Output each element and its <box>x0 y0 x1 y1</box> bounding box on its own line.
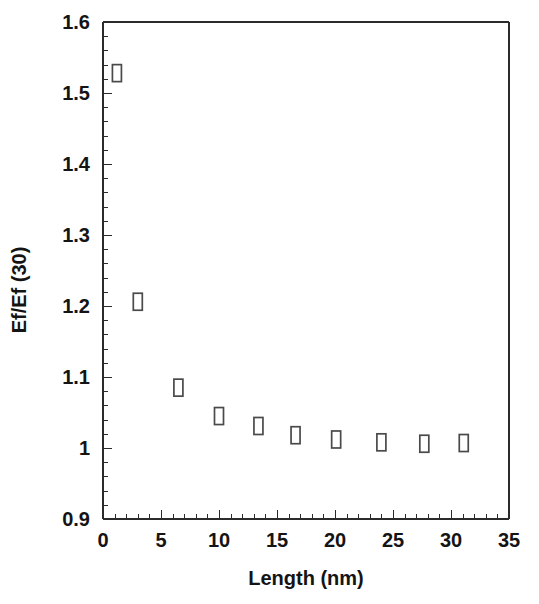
x-tick-label: 15 <box>266 529 288 551</box>
y-axis-title: Ef/Ef (30) <box>8 247 30 334</box>
x-tick-label: 20 <box>324 529 346 551</box>
data-point-marker <box>215 408 224 425</box>
x-axis-title: Length (nm) <box>248 567 364 589</box>
tick-labels-group: 051015202530350.911.11.21.31.41.51.6 <box>62 11 520 551</box>
x-tick-label: 10 <box>208 529 230 551</box>
y-tick-label: 1.2 <box>62 295 90 317</box>
y-tick-label: 1.3 <box>62 224 90 246</box>
y-tick-label: 1.1 <box>62 366 90 388</box>
x-tick-label: 35 <box>498 529 520 551</box>
data-point-marker <box>459 435 468 452</box>
data-point-marker <box>112 65 121 82</box>
y-tick-label: 1.6 <box>62 11 90 33</box>
data-point-marker <box>377 434 386 451</box>
ticks-group <box>103 23 510 520</box>
x-tick-label: 5 <box>155 529 166 551</box>
axes-group <box>103 22 509 519</box>
data-point-marker <box>174 379 183 396</box>
data-point-marker <box>254 417 263 434</box>
data-point-marker <box>420 435 429 452</box>
scatter-plot-svg: 051015202530350.911.11.21.31.41.51.6 Len… <box>0 0 539 604</box>
data-point-marker <box>291 427 300 444</box>
chart-figure: 051015202530350.911.11.21.31.41.51.6 Len… <box>0 0 539 604</box>
y-tick-label: 1.4 <box>62 153 91 175</box>
y-tick-label: 1 <box>79 437 90 459</box>
x-tick-label: 25 <box>382 529 404 551</box>
data-point-marker <box>332 431 341 448</box>
data-markers-group <box>112 65 468 453</box>
x-tick-label: 0 <box>97 529 108 551</box>
x-tick-label: 30 <box>440 529 462 551</box>
y-tick-label: 0.9 <box>62 508 90 530</box>
y-tick-label: 1.5 <box>62 82 90 104</box>
data-point-marker <box>133 293 142 310</box>
